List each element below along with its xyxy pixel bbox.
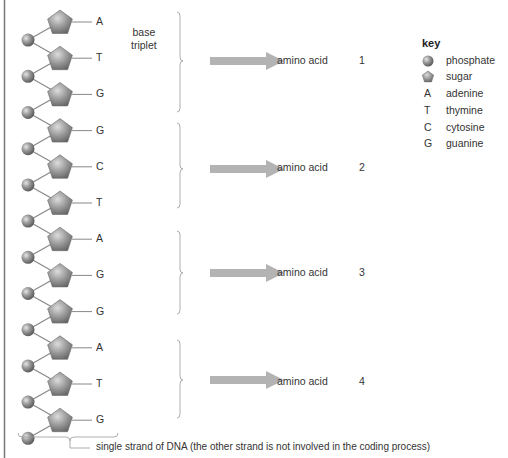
sugar-icon	[48, 82, 73, 106]
sugar-icon	[422, 71, 433, 82]
phosphate-icon	[22, 215, 35, 228]
phosphate-icon	[22, 287, 35, 300]
base-letter: T	[96, 377, 102, 389]
key-symbol-guanine: G	[424, 137, 432, 149]
base-letter: G	[96, 124, 104, 136]
amino-acid-label-4: amino acid	[277, 375, 328, 387]
triplet-brace	[177, 231, 183, 314]
triplet-brace	[177, 123, 183, 208]
key-label-phosphate: phosphate	[446, 54, 495, 66]
key-label-thymine: thymine	[446, 104, 483, 116]
key-title: key	[422, 37, 440, 49]
sugar-icon	[48, 10, 73, 34]
amino-acid-number-1: 1	[359, 54, 365, 66]
strand-caption: single strand of DNA (the other strand i…	[96, 441, 430, 452]
phosphate-icon	[22, 251, 35, 264]
arrow-icon	[210, 160, 284, 178]
base-triplet-label-line1: base	[131, 26, 157, 39]
phosphate-icon	[22, 323, 35, 336]
phosphate-icon	[423, 56, 434, 67]
amino-acid-label-2: amino acid	[277, 161, 328, 173]
key-label-adenine: adenine	[446, 87, 483, 99]
base-letter: A	[96, 15, 103, 27]
sugar-icon	[48, 119, 73, 143]
dna-coding-diagram	[0, 0, 508, 458]
arrow-icon	[210, 264, 284, 282]
base-letter: A	[96, 232, 103, 244]
phosphate-icon	[22, 359, 35, 372]
base-letter: G	[96, 413, 104, 425]
key-symbol-cytosine: C	[424, 121, 432, 133]
sugar-icon	[48, 408, 73, 432]
phosphate-icon	[22, 106, 35, 119]
arrow-icon	[210, 371, 284, 389]
sugar-icon	[48, 227, 73, 251]
base-triplet-label-line2: triplet	[131, 39, 157, 52]
amino-acid-label-3: amino acid	[277, 266, 328, 278]
amino-acid-label-1: amino acid	[277, 54, 328, 66]
translation-arrows	[210, 52, 284, 389]
amino-acid-number-4: 4	[359, 375, 365, 387]
base-triplet-label: base triplet	[131, 26, 157, 52]
triplet-brace	[177, 340, 183, 418]
phosphate-icon	[22, 178, 35, 191]
base-letter: G	[96, 305, 104, 317]
triplet-braces	[177, 12, 183, 418]
key-icons	[422, 56, 433, 82]
amino-acid-number-2: 2	[359, 161, 365, 173]
base-letter: T	[96, 196, 102, 208]
dna-backbone	[22, 10, 93, 445]
arrow-icon	[210, 52, 284, 70]
sugar-icon	[48, 46, 73, 69]
key-label-guanine: guanine	[446, 137, 483, 149]
phosphate-icon	[22, 396, 35, 409]
sugar-icon	[48, 155, 73, 179]
sugar-icon	[48, 372, 73, 396]
triplet-brace	[177, 12, 183, 112]
base-letter: A	[96, 341, 103, 353]
base-letter: T	[96, 51, 102, 63]
phosphate-icon	[22, 142, 35, 155]
phosphate-icon	[22, 34, 35, 47]
base-letter: G	[96, 87, 104, 99]
key-label-sugar: sugar	[446, 70, 472, 82]
key-symbol-adenine: A	[424, 87, 431, 99]
phosphate-icon	[22, 432, 35, 445]
phosphate-icon	[22, 70, 35, 83]
base-letter: G	[96, 268, 104, 280]
amino-acid-number-3: 3	[359, 266, 365, 278]
sugar-icon	[48, 300, 73, 324]
sugar-icon	[48, 336, 73, 360]
key-label-cytosine: cytosine	[446, 121, 485, 133]
key-symbol-thymine: T	[424, 104, 430, 116]
strand-label-leader	[70, 441, 90, 448]
sugar-icon	[48, 263, 73, 287]
base-letter: C	[96, 160, 104, 172]
sugar-icon	[48, 191, 73, 215]
